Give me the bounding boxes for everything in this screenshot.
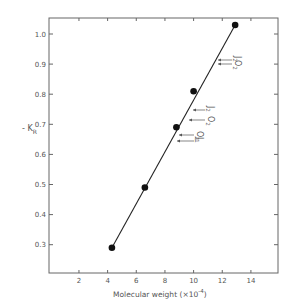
- x-tick-label: 2: [77, 277, 81, 285]
- x-axis-ticks: 2468101214: [77, 18, 256, 285]
- data-series: [109, 22, 239, 251]
- y-tick-label: 0.4: [35, 211, 47, 219]
- chart: 2468101214 0.30.40.50.60.70.80.91.0 J2O2…: [0, 0, 290, 306]
- y-tick-label: 0.6: [35, 151, 47, 159]
- data-point: [109, 244, 116, 251]
- data-point: [232, 22, 239, 29]
- x-tick-label: 6: [134, 277, 139, 285]
- arrowhead-icon: [193, 109, 196, 112]
- x-axis-label: Molecular weight (×10-4): [113, 288, 207, 299]
- arrowhead-icon: [189, 119, 192, 122]
- y-tick-label: 0.9: [35, 61, 46, 69]
- plot-frame: [49, 18, 278, 273]
- arrowhead-icon: [179, 134, 182, 137]
- y-tick-label: 0.8: [35, 91, 46, 99]
- annotation-label: J2: [205, 105, 215, 112]
- data-point: [142, 184, 149, 191]
- annotations: J2O2J2O2O1J1: [177, 55, 242, 143]
- y-axis-label-sub: R: [33, 128, 37, 135]
- annotation-label: O2: [205, 116, 215, 126]
- x-tick-label: 4: [105, 277, 110, 285]
- fit-line: [112, 25, 235, 248]
- data-point: [173, 124, 180, 131]
- arrowhead-icon: [177, 140, 180, 143]
- annotation-label: O2: [232, 60, 242, 70]
- y-tick-label: 0.3: [35, 241, 46, 249]
- annotation-label: J1: [194, 136, 204, 143]
- x-tick-label: 10: [189, 277, 198, 285]
- x-tick-label: 14: [246, 277, 255, 285]
- arrowhead-icon: [218, 59, 221, 62]
- x-tick-label: 12: [218, 277, 227, 285]
- arrowhead-icon: [218, 63, 221, 66]
- data-point: [190, 88, 197, 95]
- y-tick-label: 0.5: [35, 181, 46, 189]
- y-tick-label: 1.0: [35, 31, 46, 39]
- x-tick-label: 8: [163, 277, 167, 285]
